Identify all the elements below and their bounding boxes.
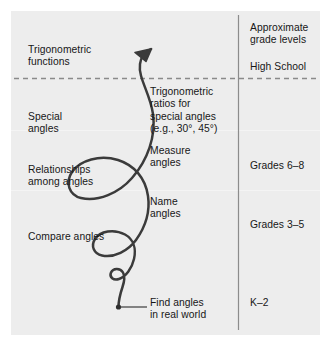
milestone-label-name-angles: Name angles [150,196,181,221]
milestone-label-trigonometric-ratios: Trigonometric ratios for special angles … [150,86,217,136]
progression-label-compare-angles: Compare angles [28,231,104,243]
milestone-label-find-angles-in-real-world: Find angles in real world [150,297,206,322]
progression-label-special-angles: Special angles [28,111,62,136]
spiral-arrowhead [135,49,152,62]
progression-label-relationships-among-angles: Relationships among angles [28,164,93,189]
progression-label-trig-functions: Trigonometric functions [28,44,91,69]
grade-level-k-2: K–2 [250,297,268,309]
progression-figure: Trigonometric functions Special angles R… [0,0,331,349]
milestone-label-measure-angles: Measure angles [150,145,190,170]
grade-level-grades-6-8: Grades 6–8 [250,160,304,172]
grade-level-high-school: High School [250,61,306,73]
grade-levels-header: Approximate grade levels [250,22,308,47]
grade-level-grades-3-5: Grades 3–5 [250,219,304,231]
